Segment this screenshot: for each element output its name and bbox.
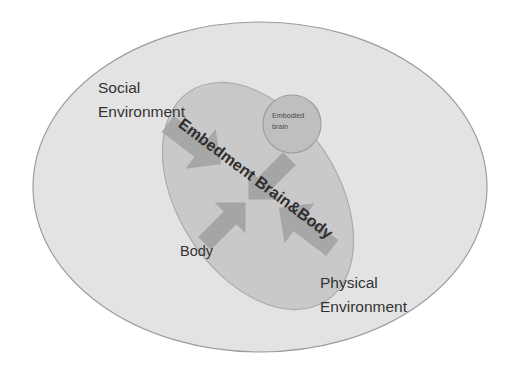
physical-environment-line2: Environment <box>320 298 408 315</box>
physical-environment-line1: Physical <box>320 274 378 291</box>
social-environment-line1: Social <box>98 79 140 96</box>
diagram-canvas: Embedment Brain&Body Social Environment … <box>0 0 525 375</box>
social-environment-line2: Environment <box>98 103 186 120</box>
embodiment-diagram: Embedment Brain&Body Social Environment … <box>0 0 525 375</box>
body-label: Body <box>180 243 214 259</box>
embodied-brain-line1: Embodied <box>272 111 304 120</box>
embodied-brain-line2: brain <box>272 122 288 131</box>
